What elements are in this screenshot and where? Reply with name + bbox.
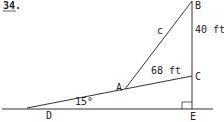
- label-BC-length: 40 ft: [195, 24, 224, 35]
- label-A: A: [116, 82, 122, 93]
- label-angle-D: 15°: [75, 96, 93, 107]
- line-DC: [27, 76, 192, 108]
- right-angle-marker: [182, 102, 192, 109]
- label-E: E: [190, 111, 196, 122]
- label-D: D: [46, 110, 52, 121]
- problem-number: 34.: [3, 0, 21, 11]
- label-AC-length: 68 ft: [151, 65, 181, 76]
- label-C: C: [195, 71, 201, 82]
- label-side-c: c: [157, 25, 163, 36]
- triangle-diagram: 34. B C E A D c 40 ft 68 ft 15°: [0, 0, 224, 122]
- label-B: B: [195, 0, 201, 11]
